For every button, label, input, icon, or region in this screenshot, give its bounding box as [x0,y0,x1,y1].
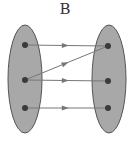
arrowhead-icon [61,60,69,67]
set-element-dot [105,43,111,49]
arrowhead-icon [62,43,69,48]
diagram-title: B [59,0,70,18]
set-element-dot [105,105,111,111]
set-element-dot [22,42,28,48]
set-element-dot [22,77,28,83]
arrowhead-icon [62,78,69,83]
mapping-diagram: B [0,0,130,142]
arrowhead-icon [62,106,69,111]
set-element-dot [105,78,111,84]
set-element-dot [22,105,28,111]
